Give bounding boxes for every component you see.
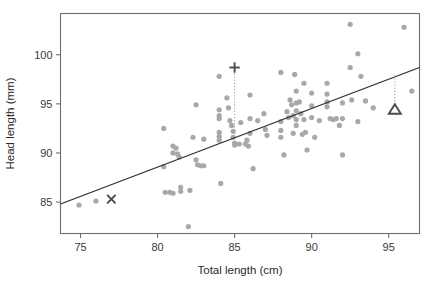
data-point	[226, 105, 231, 110]
x-marker-observed-low[interactable]	[107, 195, 115, 203]
data-point	[281, 152, 286, 157]
data-point	[294, 108, 299, 113]
data-point	[292, 72, 297, 77]
data-point	[173, 145, 178, 150]
data-point	[247, 116, 252, 121]
plus-marker-positive-residual[interactable]	[229, 62, 239, 72]
data-point	[309, 115, 314, 120]
data-point	[294, 88, 299, 93]
x-tick-label: 90	[306, 241, 318, 253]
data-point	[255, 118, 260, 123]
data-point	[304, 147, 309, 152]
data-point	[337, 123, 342, 128]
data-point	[340, 152, 345, 157]
data-point	[301, 81, 306, 86]
regression-line	[61, 68, 420, 205]
data-point	[348, 65, 353, 70]
data-point	[409, 88, 414, 93]
data-point	[186, 224, 191, 229]
data-point	[340, 116, 345, 121]
data-point	[291, 131, 296, 136]
data-point	[187, 188, 192, 193]
data-point	[76, 202, 81, 207]
data-point	[238, 120, 243, 125]
data-point	[178, 189, 183, 194]
data-point	[247, 92, 252, 97]
data-point	[263, 127, 268, 132]
data-point	[93, 198, 98, 203]
data-point	[334, 116, 339, 121]
data-point	[217, 138, 222, 143]
data-point	[289, 102, 294, 107]
data-point	[278, 128, 283, 133]
y-tick-label: 100	[34, 49, 52, 61]
data-point	[161, 126, 166, 131]
scatter-plot-svg: 7580859095859095100Total length (cm)Head…	[0, 0, 437, 291]
data-point	[170, 191, 175, 196]
data-point	[317, 118, 322, 123]
data-point	[348, 22, 353, 27]
data-point	[224, 95, 229, 100]
data-point	[217, 74, 222, 79]
data-point	[301, 117, 306, 122]
x-tick-label: 75	[74, 241, 86, 253]
data-point	[244, 138, 249, 143]
data-point	[324, 81, 329, 86]
data-point	[309, 90, 314, 95]
data-point	[363, 98, 368, 103]
data-point	[355, 119, 360, 124]
data-point	[217, 116, 222, 121]
x-axis-title: Total length (cm)	[197, 264, 282, 276]
data-point	[294, 117, 299, 122]
data-points-group	[76, 22, 414, 230]
data-point	[340, 100, 345, 105]
data-point	[261, 111, 266, 116]
triangle-marker-negative-residual[interactable]	[389, 104, 401, 113]
data-point	[237, 142, 242, 147]
data-point	[278, 135, 283, 140]
y-tick-label: 90	[40, 147, 52, 159]
data-point	[217, 107, 222, 112]
data-point	[201, 137, 206, 142]
y-axis-title: Head length (mm)	[4, 77, 16, 169]
x-tick-label: 95	[383, 241, 395, 253]
data-point	[303, 130, 308, 135]
data-point	[371, 105, 376, 110]
figure-container: 7580859095859095100Total length (cm)Head…	[0, 0, 437, 291]
data-point	[218, 181, 223, 186]
y-tick-label: 85	[40, 196, 52, 208]
data-point	[246, 143, 251, 148]
data-point	[190, 135, 195, 140]
data-point	[232, 143, 237, 148]
data-point	[264, 133, 269, 138]
x-tick-label: 80	[151, 241, 163, 253]
data-point	[287, 97, 292, 102]
data-point	[312, 135, 317, 140]
data-point	[324, 104, 329, 109]
x-tick-label: 85	[228, 241, 240, 253]
triangle-marker-outline	[389, 104, 401, 113]
data-point	[294, 123, 299, 128]
data-point	[297, 99, 302, 104]
data-point	[358, 74, 363, 79]
data-point	[324, 91, 329, 96]
data-point	[163, 190, 168, 195]
y-tick-label: 95	[40, 98, 52, 110]
data-point	[170, 150, 175, 155]
data-point	[227, 118, 232, 123]
data-point	[278, 70, 283, 75]
data-point	[193, 102, 198, 107]
data-point	[401, 25, 406, 30]
data-point	[349, 97, 354, 102]
data-point	[229, 123, 234, 128]
data-point	[284, 109, 289, 114]
data-point	[193, 157, 198, 162]
data-point	[251, 166, 256, 171]
data-point	[201, 163, 206, 168]
data-point	[355, 51, 360, 56]
